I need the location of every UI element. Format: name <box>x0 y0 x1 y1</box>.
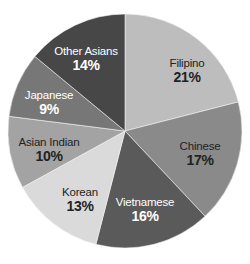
slice-label-japanese: Japanese <box>25 89 73 101</box>
slice-label-asian-indian: Asian Indian <box>19 136 80 148</box>
slice-label-filipino: Filipino <box>170 57 205 69</box>
slice-percent-other-asians: 14% <box>72 57 100 73</box>
slice-percent-asian-indian: 10% <box>35 148 63 164</box>
slice-percent-filipino: 21% <box>173 69 201 85</box>
slice-percent-japanese: 9% <box>39 101 59 117</box>
slice-label-vietnamese: Vietnamese <box>116 196 175 208</box>
pie-slices <box>8 14 242 248</box>
slice-percent-chinese: 17% <box>186 152 214 168</box>
slice-label-other-asians: Other Asians <box>54 45 118 57</box>
slice-percent-vietnamese: 16% <box>131 208 159 224</box>
pie-chart: Filipino21%Chinese17%Vietnamese16%Korean… <box>0 0 250 264</box>
slice-label-chinese: Chinese <box>180 140 221 152</box>
slice-percent-korean: 13% <box>66 198 94 214</box>
slice-label-korean: Korean <box>62 186 98 198</box>
